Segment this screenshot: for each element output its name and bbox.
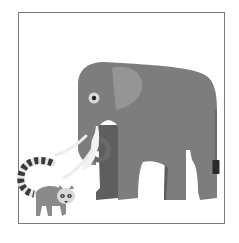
elephant-eye xyxy=(89,93,100,104)
lemur xyxy=(36,185,75,216)
elephant-lemur-illustration xyxy=(0,0,239,243)
